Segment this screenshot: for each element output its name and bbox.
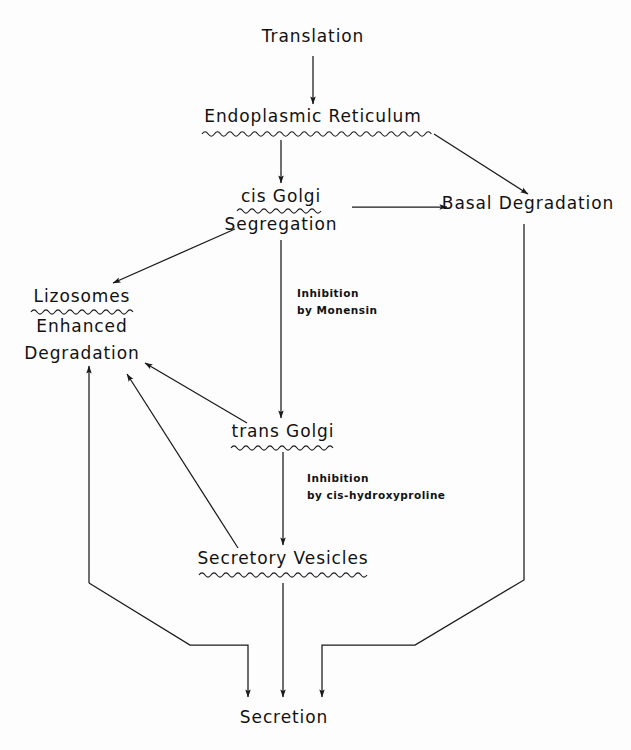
edge-cis-golgi-to-lizosomes: [113, 229, 235, 283]
node-degradation: Degradation: [24, 343, 139, 363]
note-monensin-line2: by Monensin: [297, 304, 378, 316]
edge-trans-golgi-to-degradation: [145, 363, 247, 423]
wavy-underline-secretory-vesicles: [199, 573, 367, 577]
node-cis-golgi: cis Golgi: [241, 186, 321, 206]
flow-diagram: Translation Endoplasmic Reticulum cis Go…: [0, 0, 631, 750]
label-layer: Translation Endoplasmic Reticulum cis Go…: [24, 26, 614, 727]
node-enhanced: Enhanced: [36, 316, 127, 336]
edge-degradation-to-secretion: [89, 583, 248, 697]
node-basal-degradation: Basal Degradation: [442, 193, 614, 213]
edge-er-to-basal-degradation: [434, 134, 528, 194]
note-layer: Inhibition by Monensin Inhibition by cis…: [297, 287, 446, 501]
note-cis-hydroxyproline-line2: by cis-hydroxyproline: [307, 489, 446, 501]
wavy-underline-cis-golgi: [237, 209, 321, 213]
wavy-underline-lizosomes: [31, 310, 133, 314]
node-lizosomes: Lizosomes: [34, 286, 131, 306]
node-endoplasmic-reticulum: Endoplasmic Reticulum: [204, 106, 422, 126]
note-monensin-line1: Inhibition: [297, 287, 359, 299]
node-segregation: Segregation: [225, 214, 338, 234]
edge-layer: [89, 56, 528, 697]
node-secretion: Secretion: [240, 707, 328, 727]
note-cis-hydroxyproline-line1: Inhibition: [307, 472, 369, 484]
node-secretory-vesicles: Secretory Vesicles: [197, 548, 368, 568]
wavy-underline-endoplasmic: [202, 132, 431, 136]
node-trans-golgi: trans Golgi: [232, 421, 335, 441]
node-translation: Translation: [261, 26, 365, 46]
wavy-underline-trans-golgi: [231, 446, 333, 450]
edge-vesicles-to-degradation: [127, 374, 238, 548]
diagram-canvas: Translation Endoplasmic Reticulum cis Go…: [0, 0, 631, 750]
